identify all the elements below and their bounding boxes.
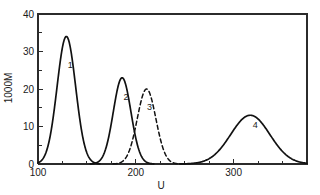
y-tick-label: 0 bbox=[28, 159, 34, 170]
curve-label-2: 2 bbox=[124, 92, 129, 102]
x-axis-tick-labels: 100200300 bbox=[30, 167, 243, 178]
y-tick-label: 20 bbox=[23, 84, 35, 95]
series-curve-4 bbox=[180, 115, 307, 164]
chart-plot: 100200300 010203040 1234 U 1000M bbox=[0, 0, 320, 195]
chart-container: 100200300 010203040 1234 U 1000M bbox=[0, 0, 320, 195]
axis-ticks bbox=[38, 14, 307, 164]
series-curves bbox=[38, 37, 307, 164]
x-tick-label: 300 bbox=[225, 167, 242, 178]
x-axis-title: U bbox=[157, 180, 164, 191]
series-curve-1 bbox=[38, 37, 100, 164]
curve-label-3: 3 bbox=[147, 102, 152, 112]
curve-label-4: 4 bbox=[253, 120, 258, 130]
x-tick-label: 200 bbox=[127, 167, 144, 178]
y-axis-tick-labels: 010203040 bbox=[23, 9, 35, 170]
y-axis-title: 1000M bbox=[3, 73, 14, 104]
y-tick-label: 40 bbox=[23, 9, 35, 20]
curve-label-1: 1 bbox=[68, 60, 73, 70]
plot-frame bbox=[38, 14, 307, 164]
y-tick-label: 10 bbox=[23, 121, 35, 132]
plot-frame-box bbox=[38, 14, 307, 164]
curve-number-labels: 1234 bbox=[68, 60, 258, 130]
y-tick-label: 30 bbox=[23, 46, 35, 57]
